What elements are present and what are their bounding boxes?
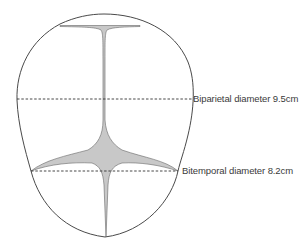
biparietal-label: Biparietal diameter 9.5cm <box>193 93 298 104</box>
skull-diagram <box>0 0 307 251</box>
top-suture <box>31 26 178 238</box>
bitemporal-label: Bitemporal diameter 8.2cm <box>182 165 293 176</box>
